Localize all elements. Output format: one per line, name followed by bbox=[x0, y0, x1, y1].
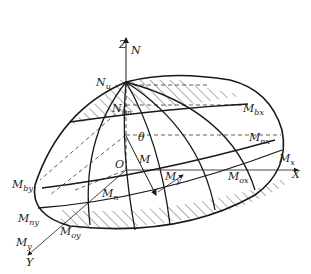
svg-text:Mby: Mby bbox=[11, 178, 33, 193]
svg-text:Mox: Mox bbox=[227, 170, 249, 185]
svg-text:O: O bbox=[115, 158, 124, 171]
svg-text:θ: θ bbox=[138, 131, 145, 144]
svg-text:Mx: Mx bbox=[278, 152, 295, 167]
svg-text:Mbx: Mbx bbox=[242, 102, 264, 117]
svg-text:N: N bbox=[130, 44, 141, 57]
svg-text:X: X bbox=[291, 168, 301, 181]
svg-text:Mn: Mn bbox=[101, 187, 118, 202]
svg-text:Mny: Mny bbox=[17, 212, 39, 227]
svg-text:Y: Y bbox=[26, 256, 35, 269]
svg-text:My: My bbox=[164, 170, 181, 185]
bottom-hatched-band bbox=[60, 178, 290, 229]
svg-text:Mnx: Mnx bbox=[248, 131, 270, 146]
svg-text:M: M bbox=[138, 153, 151, 166]
svg-text:Nu: Nu bbox=[95, 76, 111, 91]
interaction-surface-diagram: Z N Nu Nbn Mbx Mnx Mx X Mox θ M My O Mn … bbox=[0, 0, 311, 274]
svg-text:Z: Z bbox=[118, 38, 127, 51]
svg-text:My: My bbox=[15, 236, 32, 251]
